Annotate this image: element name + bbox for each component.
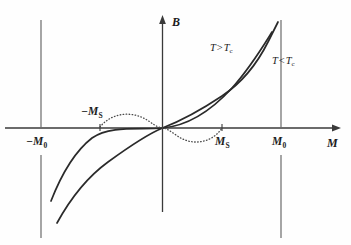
curve-label-below-tc-op: < (278, 55, 286, 66)
x-axis-arrowhead (332, 125, 341, 132)
curve-label-above-tc-var1: T (210, 42, 216, 53)
curve-label-below-tc-var2: T (286, 55, 292, 66)
tick-label-pos-m0-sub: 0 (283, 141, 287, 150)
tick-label-pos-m0: M0 (272, 136, 286, 148)
tick-label-neg-ms: −MS (81, 106, 102, 118)
y-axis-arrowhead (159, 15, 166, 24)
curve-label-below-tc-sub: c (292, 60, 295, 68)
tick-label-neg-m0-text: −M (26, 135, 43, 147)
tick-label-neg-ms-sub: S (99, 111, 103, 120)
y-axis-label: B (172, 16, 180, 28)
tick-label-neg-m0-sub: 0 (44, 141, 48, 150)
tick-label-neg-ms-text: −M (81, 105, 98, 117)
curve-label-below-tc-var1: T (272, 55, 278, 66)
magnetization-isotherm-figure: B M −M0 −MS MS M0 T>Tc T<Tc (0, 0, 351, 245)
curve-label-below-tc: T<Tc (272, 56, 295, 67)
tick-label-pos-ms: MS (215, 136, 229, 148)
tick-label-pos-ms-text: M (215, 135, 225, 147)
tick-label-pos-m0-text: M (272, 135, 282, 147)
curve-below-tc (57, 22, 278, 223)
y-axis-group (159, 15, 166, 212)
curve-label-above-tc: T>Tc (210, 43, 233, 54)
curve-label-above-tc-var2: T (224, 42, 230, 53)
curve-label-above-tc-op: > (216, 42, 224, 53)
x-axis-label: M (327, 137, 338, 149)
tick-label-neg-m0: −M0 (26, 136, 47, 148)
curve-label-above-tc-sub: c (230, 47, 233, 55)
plot-canvas (0, 0, 351, 245)
tick-label-pos-ms-sub: S (226, 141, 230, 150)
